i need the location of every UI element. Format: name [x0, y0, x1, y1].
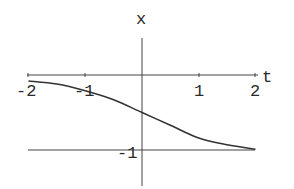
tick-label-minus-2: -2 — [16, 82, 36, 101]
y-axis-label: x — [136, 10, 146, 29]
x-axis-label: t — [262, 68, 272, 87]
chart: x t -2 -1 1 2 -1 — [0, 0, 294, 189]
y-tick-label-minus-1: -1 — [117, 144, 137, 163]
tick-label-2: 2 — [250, 82, 260, 101]
tick-label-1: 1 — [194, 82, 204, 101]
tick-label-minus-1: -1 — [74, 82, 94, 101]
